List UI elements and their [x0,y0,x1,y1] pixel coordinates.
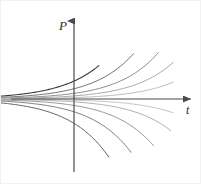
t-axis-label: t [186,104,189,116]
curve-below-4 [1,100,131,152]
curve-below-3 [1,100,153,146]
solution-curves-group [1,53,173,157]
p-axis-label: P [59,19,67,32]
curve-above-1 [1,66,99,97]
figure-container: P t [0,0,201,184]
curve-above-3 [1,53,158,99]
curve-below-2 [1,99,171,130]
solution-curves-plot [1,1,201,184]
curve-below-5 [1,102,109,157]
